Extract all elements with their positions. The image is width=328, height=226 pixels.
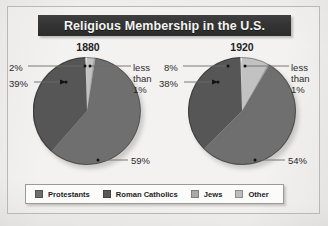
legend-swatch-roman-catholics xyxy=(103,190,111,198)
legend-item-other: Other xyxy=(235,190,268,199)
chart-legend: Protestants Roman Catholics Jews Other xyxy=(25,184,284,204)
legend-item-roman-catholics: Roman Catholics xyxy=(103,190,178,199)
pie-svg-1920 xyxy=(188,57,296,165)
callout-1880-roman-catholics: 39% xyxy=(9,78,28,90)
callout-1920-roman-catholics: 38% xyxy=(159,78,178,90)
legend-label-roman-catholics: Roman Catholics xyxy=(116,190,178,199)
legend-swatch-jews xyxy=(191,190,199,198)
callout-1920-protestants: 54% xyxy=(288,155,307,167)
legend-label-protestants: Protestants xyxy=(48,190,90,199)
chart-title-1920: 1920 xyxy=(214,41,270,53)
pie-chart-1880 xyxy=(33,57,141,165)
chart-title-1880: 1880 xyxy=(60,41,116,53)
pie-svg-1880 xyxy=(33,57,141,165)
legend-label-jews: Jews xyxy=(204,190,223,199)
figure-title-bar: Religious Membership in the U.S. xyxy=(38,15,291,36)
legend-label-other: Other xyxy=(248,190,268,199)
legend-swatch-protestants xyxy=(35,190,43,198)
figure-canvas: Religious Membership in the U.S. 1880 19… xyxy=(0,0,328,226)
legend-swatch-other xyxy=(235,190,243,198)
page-title: Religious Membership in the U.S. xyxy=(64,19,265,33)
legend-item-jews: Jews xyxy=(191,190,223,199)
callout-1880-protestants: 59% xyxy=(131,155,150,167)
callout-1920-other: 8% xyxy=(164,62,178,74)
callout-1880-other: 2% xyxy=(9,62,23,74)
callout-1920-jews: less than 1% xyxy=(291,62,321,95)
pie-chart-1920 xyxy=(188,57,296,165)
legend-item-protestants: Protestants xyxy=(35,190,90,199)
